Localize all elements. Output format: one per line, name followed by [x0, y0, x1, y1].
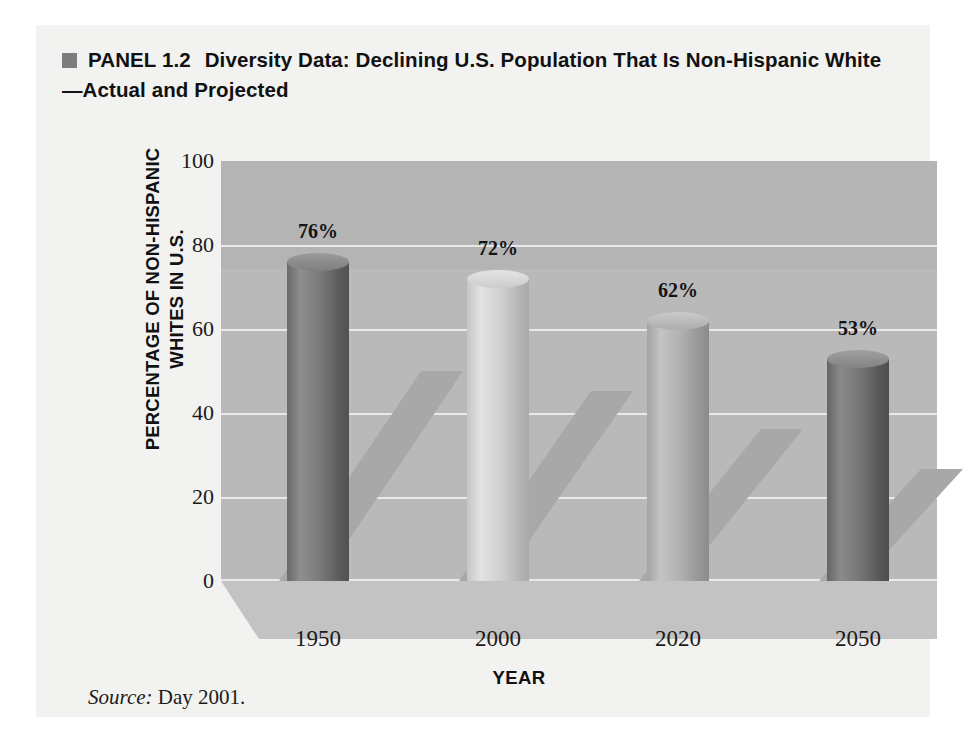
y-axis-title-line1: PERCENTAGE OF NON-HISPANIC [142, 148, 163, 451]
x-tick-2050: 2050 [835, 626, 881, 652]
y-tick-60: 60 [168, 316, 214, 342]
bar-2020[interactable]: 62% [647, 321, 709, 581]
y-tick-20: 20 [168, 484, 214, 510]
bar-2050[interactable]: 53% [827, 359, 889, 581]
bar-chart: PERCENTAGE OF NON-HISPANIC WHITES IN U.S… [72, 130, 966, 690]
bar-2000-cap [467, 270, 529, 288]
bar-2050-body [827, 359, 889, 581]
source-note: Source: Day 2001. [88, 685, 245, 710]
source-text: Day 2001. [153, 685, 246, 709]
panel-bullet-icon [62, 53, 77, 68]
bar-1950-cap [287, 253, 349, 271]
bar-2020-body [647, 321, 709, 581]
bar-2050-value: 53% [838, 317, 878, 340]
bar-2000[interactable]: 72% [467, 279, 529, 581]
x-tick-2000: 2000 [475, 626, 521, 652]
y-tick-0: 0 [168, 568, 214, 594]
x-tick-2020: 2020 [655, 626, 701, 652]
bar-2020-value: 62% [658, 279, 698, 302]
x-tick-1950: 1950 [295, 626, 341, 652]
bar-2000-value: 72% [478, 237, 518, 260]
bar-2050-cap [827, 350, 889, 368]
plot-area: 76% 72% 62% [221, 161, 937, 581]
source-prefix: Source: [88, 685, 153, 709]
gridline-80 [221, 245, 937, 247]
y-tick-100: 100 [168, 148, 214, 174]
bar-2000-body [467, 279, 529, 581]
y-axis-ticks: 100 80 60 40 20 0 [168, 130, 214, 690]
y-tick-80: 80 [168, 232, 214, 258]
panel-caption: PANEL 1.2Diversity Data: Declining U.S. … [62, 45, 892, 105]
panel-figure-screenshot: PANEL 1.2Diversity Data: Declining U.S. … [0, 0, 975, 745]
bar-2020-cap [647, 312, 709, 330]
bar-1950-value: 76% [298, 220, 338, 243]
bar-1950-body [287, 262, 349, 581]
panel-number: PANEL 1.2 [88, 48, 191, 71]
bar-1950[interactable]: 76% [287, 262, 349, 581]
y-tick-40: 40 [168, 400, 214, 426]
figure-panel: PANEL 1.2Diversity Data: Declining U.S. … [36, 25, 930, 717]
